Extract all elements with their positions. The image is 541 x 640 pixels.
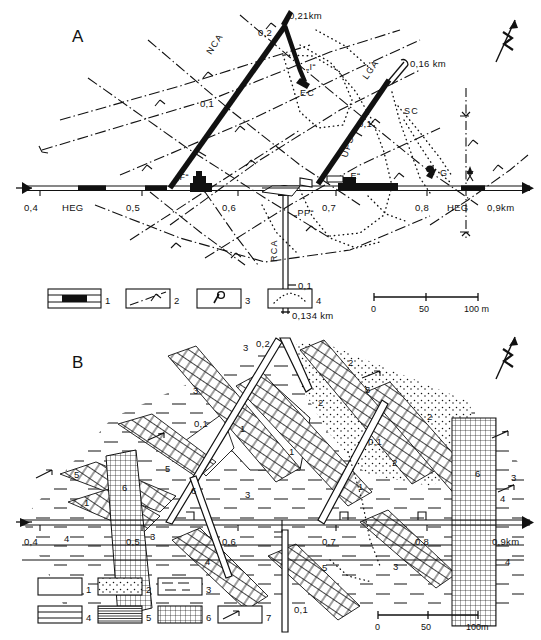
gallery-label-rca: RCA [269,239,279,262]
axis-tick-label: 0,7 [322,536,336,547]
distance-label: 0,2 [258,27,272,38]
axis-marker-label: HEG [62,202,84,213]
unit-number: 2 [392,457,397,468]
unit-number: 5 [322,562,327,573]
axis-tick-label: 0,4 [24,536,38,547]
station-label-i: „I“ [306,62,316,72]
station-symbols [193,166,473,186]
legend-number: 1 [105,295,110,306]
unit-number: 3 [150,531,155,542]
distance-label: 0,1 [294,604,308,615]
legend-number: 4 [316,295,321,306]
fault-lines-group [42,15,528,265]
unit-number: 4 [205,556,210,567]
unit-number: 3 [245,489,250,500]
distance-label: 0,134 km [292,310,333,321]
axis-tick-label: 0,7 [322,202,336,213]
legend-item-6[interactable] [158,606,202,623]
legend-number: 6 [206,612,211,623]
north-arrow [496,20,518,62]
legend-number: 4 [86,612,91,623]
axis-tick-label: 0,9km [487,202,514,213]
scalebar-panel-a [374,293,478,301]
unit-number: 4 [64,533,69,544]
nca-gallery [170,10,310,188]
legend-number: 2 [174,295,179,306]
unit-number: 1 [358,481,363,492]
unit-number: 6 [122,482,127,493]
unit-number: 2 [348,357,353,368]
unit-number: 1 [289,446,294,457]
unit-number: 3 [243,342,248,353]
axis-marker-label: HEG [447,202,469,213]
scalebar-tick-label: 100m [466,622,489,632]
legend-panel-a [48,289,312,308]
panel-letter-b: B [72,353,84,372]
scalebar-tick-label: 0 [375,622,380,632]
legend-item-4[interactable] [38,606,82,623]
distance-label: 0,1 [298,280,312,291]
panel-b [16,337,534,632]
legend-number: 1 [86,584,91,595]
station-label-pp: „PP“ [294,208,314,218]
geological-mine-map-figure: A B 0,4 0,5 0,6 0,7 0,8 0,9km HEG HEG NC… [0,0,541,640]
unit-number: 3 [511,472,516,483]
unit-number: 3 [393,561,398,572]
axis-tick-label: 0,6 [222,202,236,213]
scalebar-tick-label: 0 [371,304,376,314]
legend-item-3[interactable] [158,578,202,595]
legend-number: 7 [266,612,271,623]
axis-tick-label: 0,6 [222,536,236,547]
legend-number: 3 [206,584,211,595]
legend-item-7[interactable] [218,606,262,623]
figure-svg: A B 0,4 0,5 0,6 0,7 0,8 0,9km HEG HEG NC… [0,0,541,640]
legend-item-3[interactable] [197,289,241,308]
panel-a [16,10,534,314]
axis-tick-label: 0,9km [492,536,519,547]
unit-number: 4 [500,493,505,504]
unit-number: 3 [193,385,198,396]
legend-item-2[interactable] [98,578,142,595]
legend-item-1[interactable] [48,289,101,308]
unit-number: 6 [475,468,480,479]
axis-tick-label: 0,5 [126,202,140,213]
unit-number: 2 [427,411,432,422]
scalebar-tick-label: 100 m [464,304,489,314]
station-label-e: „E“ [347,171,361,181]
gallery-label-nca: NCA [204,31,225,56]
unit-number: 5 [365,384,370,395]
legend-item-4[interactable] [268,289,312,308]
legend-number: 5 [146,612,151,623]
unit-number: 5 [165,463,170,474]
unit-number: 2 [318,397,323,408]
distance-label: 0,2 [256,338,270,349]
legend-item-5[interactable] [98,606,142,623]
station-label-f: „F“ [176,172,189,182]
unit-number: 1 [240,423,245,434]
legend-number: 3 [245,295,250,306]
gallery-label-lca: LCA [360,58,380,81]
station-label-g: G [440,168,448,178]
unit-number: 1 [84,497,89,508]
unit-number: 5 [74,469,79,480]
axis-tick-label: 0,5 [126,536,140,547]
scalebar-tick-label: 50 [421,622,431,632]
distance-label: 0,1 [194,418,208,429]
gallery-label-sc: SC [404,106,419,116]
panel-letter-a: A [72,27,84,46]
scalebar-tick-label: 50 [419,304,429,314]
north-arrow [496,337,518,379]
legend-item-1[interactable] [38,578,82,595]
gallery-label-ups: UPS [339,134,355,158]
distance-label: 0,16 km [410,58,446,69]
legend-number: 2 [146,584,151,595]
axis-tick-label: 0,8 [415,536,429,547]
distance-label: 0,1 [200,98,214,109]
axis-tick-label: 0,8 [415,202,429,213]
legend-item-2[interactable] [126,289,170,308]
axis-tick-label: 0,4 [24,202,38,213]
gallery-label-ec: EC [300,88,315,98]
unit-number: 6 [191,485,196,496]
distance-label: 0,21km [289,10,322,21]
distance-label: 0,1 [368,436,382,447]
